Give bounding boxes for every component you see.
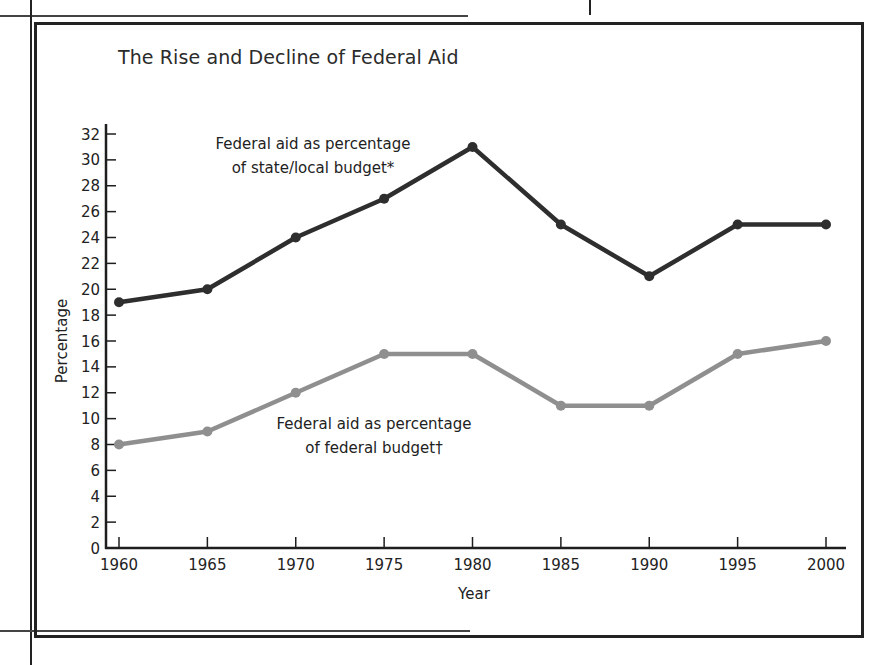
data-point [468, 349, 478, 359]
data-point [202, 427, 212, 437]
y-tick-label: 28 [81, 177, 100, 195]
data-point [821, 220, 831, 230]
y-tick-label: 12 [81, 384, 100, 402]
data-point [114, 440, 124, 450]
y-tick-label: 10 [81, 410, 100, 428]
y-tick-label: 0 [90, 540, 100, 558]
data-point [379, 349, 389, 359]
series-annotation-state-local: of state/local budget* [232, 159, 395, 177]
y-tick-label: 8 [90, 436, 100, 454]
y-tick-label: 2 [90, 514, 100, 532]
y-tick-label: 14 [81, 358, 100, 376]
x-tick-label: 1965 [188, 556, 226, 574]
data-point [821, 336, 831, 346]
data-point [291, 233, 301, 243]
series-line-0 [119, 147, 826, 302]
data-point [733, 349, 743, 359]
y-tick-label: 20 [81, 281, 100, 299]
series-annotation-federal: Federal aid as percentage [277, 415, 472, 433]
y-tick-label: 22 [81, 255, 100, 273]
data-point [468, 142, 478, 152]
y-tick-label: 26 [81, 203, 100, 221]
x-tick-label: 1980 [453, 556, 491, 574]
data-point [202, 284, 212, 294]
y-tick-label: 4 [90, 488, 100, 506]
x-tick-label: 1975 [365, 556, 403, 574]
y-tick-label: 16 [81, 333, 100, 351]
data-point [556, 220, 566, 230]
series-annotation-federal: of federal budget† [305, 439, 443, 457]
y-tick-label: 24 [81, 229, 100, 247]
x-tick-label: 1985 [542, 556, 580, 574]
data-point [291, 388, 301, 398]
series-annotation-state-local: Federal aid as percentage [216, 135, 411, 153]
y-tick-label: 32 [81, 126, 100, 144]
data-point [114, 297, 124, 307]
data-point [644, 271, 654, 281]
x-tick-label: 1970 [277, 556, 315, 574]
x-axis-title: Year [457, 585, 491, 603]
data-point [733, 220, 743, 230]
y-tick-label: 6 [90, 462, 100, 480]
x-tick-label: 1995 [719, 556, 757, 574]
data-point [556, 401, 566, 411]
y-tick-label: 30 [81, 151, 100, 169]
x-tick-label: 1990 [630, 556, 668, 574]
x-tick-label: 2000 [807, 556, 845, 574]
line-chart: 0246810121416182022242628303219601965197… [0, 0, 895, 665]
data-point [379, 194, 389, 204]
x-tick-label: 1960 [100, 556, 138, 574]
y-axis-title: Percentage [53, 299, 71, 383]
y-tick-label: 18 [81, 307, 100, 325]
data-point [644, 401, 654, 411]
